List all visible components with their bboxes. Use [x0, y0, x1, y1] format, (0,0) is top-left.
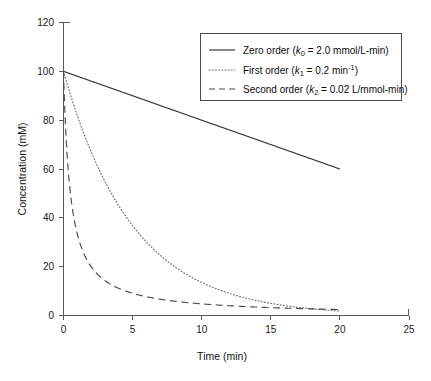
x-tick-label-20: 20 — [334, 324, 346, 335]
y-tick-label-120: 120 — [37, 17, 54, 28]
y-tick-label-100: 100 — [37, 66, 54, 77]
x-tick-label-5: 5 — [130, 324, 136, 335]
x-tick-label-10: 10 — [196, 324, 208, 335]
series-second-order — [64, 71, 340, 309]
y-tick-label-80: 80 — [43, 115, 55, 126]
y-tick-label-40: 40 — [43, 212, 55, 223]
x-tick-label-25: 25 — [403, 324, 415, 335]
chart-svg: 0 20 40 60 80 100 120 0 5 10 15 20 25 Ti… — [0, 0, 431, 381]
y-ticks-group: 0 20 40 60 80 100 120 — [37, 17, 63, 321]
x-tick-label-0: 0 — [61, 324, 67, 335]
y-tick-label-60: 60 — [43, 164, 55, 175]
y-tick-label-0: 0 — [48, 310, 54, 321]
kinetics-chart: 0 20 40 60 80 100 120 0 5 10 15 20 25 Ti… — [0, 0, 431, 381]
x-tick-label-15: 15 — [265, 324, 277, 335]
legend: Zero order (k0 = 2.0 mmol/L-min) First o… — [201, 34, 408, 101]
x-axis-title: Time (min) — [197, 350, 247, 362]
y-axis-title: Concentration (mM) — [16, 123, 28, 216]
y-tick-label-20: 20 — [43, 261, 55, 272]
series-first-order — [64, 71, 340, 311]
x-ticks-group: 0 5 10 15 20 25 — [61, 316, 415, 336]
series-group — [64, 71, 340, 311]
